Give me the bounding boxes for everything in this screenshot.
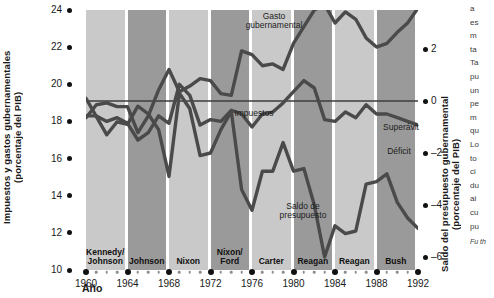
x-axis-major-tick-dot <box>166 269 172 275</box>
x-axis-minor-tick-dot <box>386 271 389 274</box>
x-axis-minor-tick-dot <box>354 271 357 274</box>
x-axis-minor-tick-dot <box>406 271 409 274</box>
side-note-line: pu <box>470 220 494 234</box>
saldo-label: Saldo de presupuesto <box>272 202 334 221</box>
side-note-line: pe <box>470 97 494 111</box>
x-axis-minor-tick-dot <box>105 271 108 274</box>
x-axis-minor-tick-dot <box>323 271 326 274</box>
gasto-label: Gasto gubernamental <box>236 12 312 31</box>
side-note-line: ta <box>470 43 494 57</box>
y-axis-left-tick-dot <box>67 119 72 124</box>
side-note-line: m <box>470 29 494 43</box>
series-lines <box>86 10 418 270</box>
y-axis-left-tick-dot <box>67 193 72 198</box>
x-axis-minor-tick-dot <box>220 271 223 274</box>
y-axis-right-title: Saldo del presupuesto gubernamental (por… <box>440 78 470 290</box>
y-axis-left-tick-dot <box>67 8 72 13</box>
x-axis-tick-label: 1980 <box>282 279 304 289</box>
superavit-label: Superávit <box>376 123 426 132</box>
y-axis-left-tick-label: 20 <box>28 79 62 89</box>
x-axis-minor-tick-dot <box>344 271 347 274</box>
y-axis-left-tick-label: 16 <box>28 154 62 164</box>
x-axis-minor-tick-dot <box>137 271 140 274</box>
y-axis-right-tick-dot <box>423 203 428 208</box>
x-axis-minor-tick-dot <box>188 271 191 274</box>
plot-area: Kennedy/ JohnsonJohnsonNixonNixon/ FordC… <box>86 10 418 270</box>
deficit-label: Déficit <box>378 147 420 156</box>
x-axis-tick-label: 1976 <box>241 279 263 289</box>
side-note-line: cu <box>470 206 494 220</box>
y-axis-right-tick-dot <box>423 47 428 52</box>
y-axis-right-tick-dot <box>423 151 428 156</box>
y-axis-right-tick-dot <box>423 99 428 104</box>
y-axis-left-tick-label: 18 <box>28 116 62 126</box>
side-note-line: Lo <box>470 138 494 152</box>
side-note-line: qu <box>470 124 494 138</box>
side-note-line: pu <box>470 70 494 84</box>
x-axis-major-tick-dot <box>332 269 338 275</box>
x-axis-minor-tick-dot <box>199 271 202 274</box>
y-axis-left-tick-dot <box>67 82 72 87</box>
x-axis-tick-label: 1968 <box>158 279 180 289</box>
y-axis-left-tick-dot <box>67 45 72 50</box>
side-note-line: ai <box>470 192 494 206</box>
side-note-line: to <box>470 152 494 166</box>
x-axis-major-tick-dot <box>249 269 255 275</box>
chart-figure: Impuestos y gastos gubernamentales (porc… <box>0 0 494 298</box>
x-axis-minor-tick-dot <box>178 271 181 274</box>
x-axis-minor-tick-dot <box>365 271 368 274</box>
x-axis-major-tick-dot <box>208 269 214 275</box>
y-axis-left-tick-dot <box>67 230 72 235</box>
y-axis-right-tick-label: 2 <box>431 44 437 54</box>
x-axis-minor-tick-dot <box>271 271 274 274</box>
x-axis-tick-label: 1992 <box>407 279 429 289</box>
x-axis-minor-tick-dot <box>116 271 119 274</box>
side-note-line: ci <box>470 165 494 179</box>
x-axis-minor-tick-dot <box>313 271 316 274</box>
x-axis-minor-tick-dot <box>240 271 243 274</box>
y-axis-left-tick-label: 22 <box>28 42 62 52</box>
x-axis-tick-label: 1984 <box>324 279 346 289</box>
impuestos-label: Impuestos <box>228 109 280 118</box>
side-note-line: du <box>470 179 494 193</box>
x-axis-minor-tick-dot <box>230 271 233 274</box>
side-note-line: un <box>470 84 494 98</box>
side-note-line: es <box>470 16 494 30</box>
x-axis-tick-label: 1988 <box>365 279 387 289</box>
x-axis-minor-tick-dot <box>282 271 285 274</box>
y-axis-left-tick-label: 14 <box>28 191 62 201</box>
x-axis-major-tick-dot <box>415 269 421 275</box>
x-axis-minor-tick-dot <box>147 271 150 274</box>
side-note-line: Ta <box>470 56 494 70</box>
x-axis-minor-tick-dot <box>157 271 160 274</box>
x-axis-major-tick-dot <box>83 269 89 275</box>
x-axis-tick-label: 1972 <box>199 279 221 289</box>
y-axis-left-tick-label: 24 <box>28 5 62 15</box>
y-axis-left-tick-label: 12 <box>28 228 62 238</box>
y-axis-left-tick-label: 10 <box>28 265 62 275</box>
x-axis-tick-label: 1964 <box>116 279 138 289</box>
side-note-source: Fu th <box>470 237 494 246</box>
x-axis-minor-tick-dot <box>396 271 399 274</box>
side-note-line: a <box>470 2 494 16</box>
side-note-line: m <box>470 111 494 125</box>
x-axis-major-tick-dot <box>374 269 380 275</box>
x-axis-minor-tick-dot <box>303 271 306 274</box>
x-axis-major-tick-dot <box>291 269 297 275</box>
x-axis-title: Año <box>82 282 102 294</box>
x-axis-major-tick-dot <box>125 269 131 275</box>
side-note-column: aesmtaTapuunpemquLotociduaicupuFu th <box>470 2 494 296</box>
x-axis-minor-tick-dot <box>95 271 98 274</box>
y-axis-right-tick-dot <box>423 255 428 260</box>
y-axis-right-tick-label: 0 <box>431 96 437 106</box>
x-axis-minor-tick-dot <box>261 271 264 274</box>
y-axis-left-tick-dot <box>67 156 72 161</box>
y-axis-left-tick-dot <box>67 268 72 273</box>
